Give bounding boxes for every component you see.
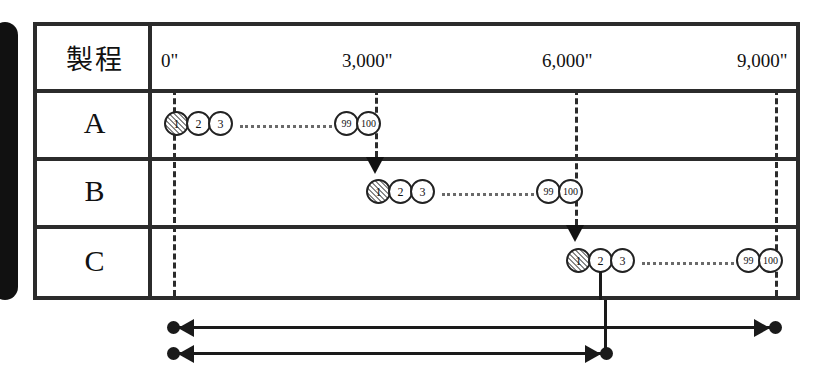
- token-ellipsis-c: [642, 259, 734, 265]
- span-arrow-partial-right-head: [585, 345, 601, 363]
- row-label-c: C: [37, 225, 152, 296]
- tick-label-6000: 6,000": [542, 50, 593, 72]
- guide-line-6000: [575, 89, 578, 225]
- token-b-100[interactable]: 100: [558, 179, 583, 204]
- table-header-label: 製程: [37, 26, 152, 89]
- drop-line-in-table: [599, 271, 602, 300]
- span-arrow-full-line: [173, 326, 775, 329]
- span-arrow-full-left-head: [178, 319, 194, 337]
- tick-label-9000: 9,000": [737, 50, 788, 72]
- span-arrow-full-right-head: [754, 319, 770, 337]
- tick-label-3000: 3,000": [342, 50, 393, 72]
- token-b-3[interactable]: 3: [410, 179, 435, 204]
- token-a-3[interactable]: 3: [208, 111, 233, 136]
- span-arrow-full-end-dot: [769, 321, 782, 334]
- token-ellipsis-a: [240, 122, 332, 128]
- guide-arrow-3000: [366, 157, 384, 174]
- row-label-a: A: [37, 89, 152, 157]
- scan-edge-artifact: [0, 22, 18, 300]
- process-schedule-table: 製程 A B C 0" 3,000" 6,000" 9,000" 1 2 3 9…: [33, 22, 800, 300]
- row-label-b: B: [37, 157, 152, 225]
- token-a-100[interactable]: 100: [356, 111, 381, 136]
- diagram-page: 製程 A B C 0" 3,000" 6,000" 9,000" 1 2 3 9…: [0, 0, 831, 384]
- span-arrow-partial-left-head: [178, 345, 194, 363]
- token-ellipsis-b: [442, 190, 534, 196]
- span-arrow-partial-line: [173, 352, 606, 355]
- token-c-100[interactable]: 100: [758, 248, 783, 273]
- span-arrow-partial-end-dot: [600, 347, 613, 360]
- guide-arrow-6000: [566, 225, 584, 242]
- tick-label-0: 0": [161, 50, 178, 72]
- token-c-3[interactable]: 3: [610, 248, 635, 273]
